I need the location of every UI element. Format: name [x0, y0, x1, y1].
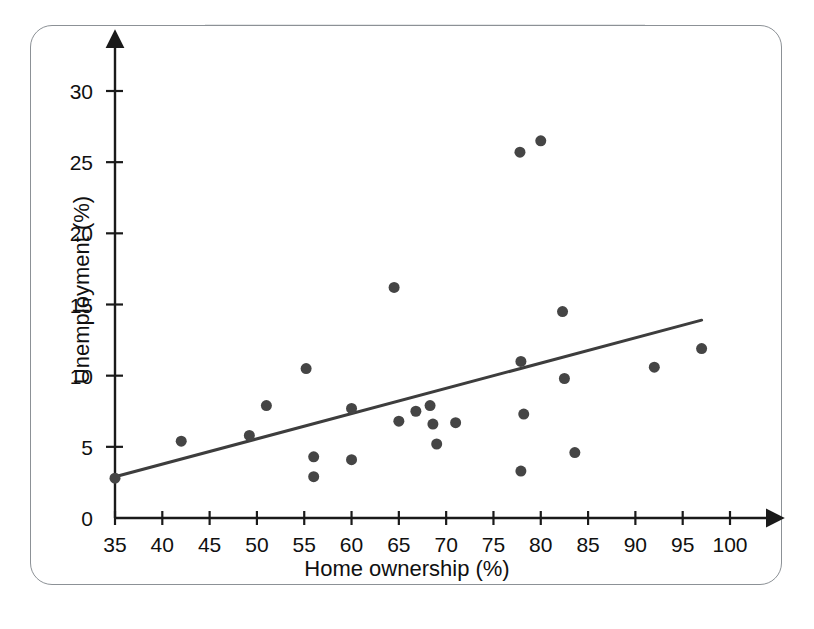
data-point [427, 419, 438, 430]
data-point [110, 473, 121, 484]
data-point [569, 447, 580, 458]
data-point [518, 409, 529, 420]
data-point [308, 471, 319, 482]
data-point [696, 343, 707, 354]
data-point [514, 147, 525, 158]
data-point [261, 400, 272, 411]
x-tick-label-65: 65 [387, 534, 410, 555]
x-tick-label-40: 40 [151, 534, 174, 555]
data-point [559, 373, 570, 384]
x-tick-label-75: 75 [482, 534, 505, 555]
data-point [308, 451, 319, 462]
figure-container: 35404550556065707580859095100 0510152025… [0, 0, 814, 629]
x-tick-label-50: 50 [245, 534, 268, 555]
data-point [431, 438, 442, 449]
x-axis-label: Home ownership (%) [304, 556, 509, 582]
x-tick-label-45: 45 [198, 534, 221, 555]
x-tick-label-95: 95 [671, 534, 694, 555]
data-point [515, 356, 526, 367]
y-axis-label: Unemployment (%) [69, 196, 95, 384]
data-point [389, 282, 400, 293]
y-tick-label-30: 30 [70, 81, 93, 102]
data-point [410, 406, 421, 417]
x-tick-label-80: 80 [529, 534, 552, 555]
data-point [557, 306, 568, 317]
data-point [176, 436, 187, 447]
data-points [110, 135, 708, 483]
data-point [244, 430, 255, 441]
regression-line [115, 320, 702, 477]
x-tick-label-60: 60 [340, 534, 363, 555]
axes-group [115, 46, 768, 518]
data-point [535, 135, 546, 146]
x-tick-label-35: 35 [103, 534, 126, 555]
data-point [425, 400, 436, 411]
data-point [346, 403, 357, 414]
y-tick-label-0: 0 [81, 508, 93, 529]
x-tick-label-55: 55 [293, 534, 316, 555]
y-tick-label-5: 5 [81, 436, 93, 457]
data-point [649, 362, 660, 373]
y-axis-label-wrapper: Unemployment (%) [52, 0, 53, 629]
x-tick-label-90: 90 [624, 534, 647, 555]
x-tick-label-70: 70 [434, 534, 457, 555]
x-tick-label-100: 100 [712, 534, 747, 555]
data-point [346, 454, 357, 465]
y-tick-label-25: 25 [70, 152, 93, 173]
data-point [450, 417, 461, 428]
x-tick-label-85: 85 [576, 534, 599, 555]
trend-line [115, 320, 702, 477]
axis-ticks [106, 91, 730, 525]
data-point [393, 416, 404, 427]
data-point [515, 466, 526, 477]
data-point [301, 363, 312, 374]
